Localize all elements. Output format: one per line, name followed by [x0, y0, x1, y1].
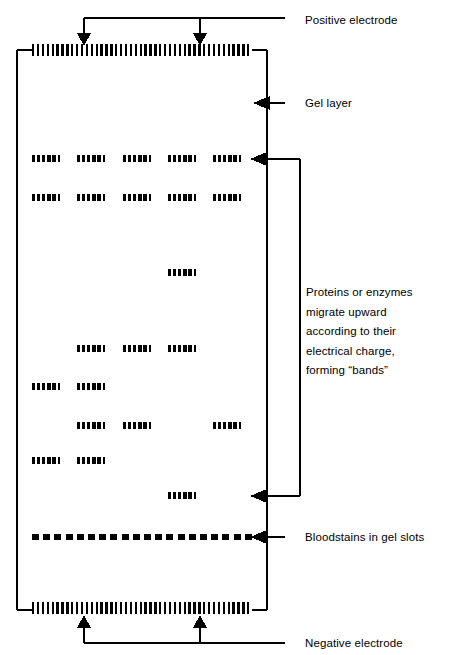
band-dash [92, 457, 95, 464]
electrode-tooth [52, 602, 54, 614]
electrode-tooth [149, 44, 151, 56]
band-dash [183, 269, 186, 276]
band-dash [228, 155, 231, 162]
band-dash [82, 194, 85, 201]
electrode-tooth [223, 602, 225, 614]
band-dash [97, 345, 100, 352]
electrode-tooth [81, 602, 83, 614]
slot-dash [54, 534, 61, 541]
electrode-tooth [154, 602, 156, 614]
band-dash [32, 383, 35, 390]
protein-band [213, 155, 241, 162]
band-dash [32, 457, 35, 464]
electrode-tooth [130, 602, 132, 614]
band-dash [143, 155, 146, 162]
electrode-tooth [140, 44, 142, 56]
band-dash [178, 269, 181, 276]
migration-bands-label: Proteins or enzymes migrate upward accor… [306, 283, 426, 381]
protein-band [168, 194, 196, 201]
electrode-tooth [110, 44, 112, 56]
band-dash [103, 383, 106, 390]
band-dash [82, 422, 85, 429]
band-dash [58, 155, 61, 162]
protein-band [77, 194, 105, 201]
band-dash [58, 383, 61, 390]
electrode-tooth [115, 602, 117, 614]
band-dash [42, 457, 45, 464]
slot-dash [88, 534, 95, 541]
protein-band [123, 155, 151, 162]
band-dash [97, 383, 100, 390]
band-dash [173, 194, 176, 201]
electrode-tooth [159, 44, 161, 56]
electrode-tooth [174, 602, 176, 614]
electrode-tooth [56, 44, 58, 56]
gel-box-outline [17, 50, 267, 610]
protein-band [32, 383, 60, 390]
protein-bands-layer [32, 155, 241, 499]
band-dash [52, 194, 55, 201]
slot-dash [122, 534, 129, 541]
electrode-tooth [81, 44, 83, 56]
band-dash [168, 155, 171, 162]
electrode-tooth [86, 44, 88, 56]
electrode-tooth [125, 602, 127, 614]
electrode-tooth [228, 44, 230, 56]
electrode-tooth [96, 602, 98, 614]
band-dash [183, 155, 186, 162]
band-dash [194, 492, 197, 499]
band-dash [128, 155, 131, 162]
electrode-tooth [247, 602, 249, 614]
electrode-tooth [218, 44, 220, 56]
positive-electrode-comb [32, 44, 249, 56]
band-dash [228, 194, 231, 201]
band-dash [149, 422, 152, 429]
band-dash [103, 194, 106, 201]
slot-dash [144, 534, 151, 541]
electrode-tooth [76, 44, 78, 56]
slot-dash [234, 534, 241, 541]
band-dash [143, 422, 146, 429]
band-dash [178, 155, 181, 162]
band-dash [213, 194, 216, 201]
band-dash [233, 194, 236, 201]
protein-band [77, 155, 105, 162]
band-dash [47, 194, 50, 201]
electrode-tooth [125, 44, 127, 56]
band-dash [133, 422, 136, 429]
electrode-tooth [218, 602, 220, 614]
band-dash [87, 383, 90, 390]
electrode-tooth [164, 602, 166, 614]
band-dash [173, 269, 176, 276]
band-dash [173, 155, 176, 162]
band-dash [194, 194, 197, 201]
electrode-tooth [91, 602, 93, 614]
electrode-tooth [169, 44, 171, 56]
band-dash [32, 155, 35, 162]
protein-band [123, 422, 151, 429]
band-dash [223, 194, 226, 201]
band-dash [168, 492, 171, 499]
band-dash [37, 155, 40, 162]
band-dash [87, 194, 90, 201]
band-dash [188, 345, 191, 352]
slot-dash [99, 534, 106, 541]
band-dash [92, 383, 95, 390]
slot-dash [245, 534, 252, 541]
electrode-tooth [144, 44, 146, 56]
electrode-tooth [91, 44, 93, 56]
band-dash [138, 422, 141, 429]
band-dash [103, 457, 106, 464]
positive-electrode-leader [77, 18, 285, 46]
electrode-tooth [105, 44, 107, 56]
band-dash [143, 345, 146, 352]
electrode-tooth [115, 44, 117, 56]
band-dash [223, 422, 226, 429]
band-dash [87, 457, 90, 464]
slot-dash [155, 534, 162, 541]
bloodstain-slot-row [32, 534, 252, 541]
electrode-tooth [130, 44, 132, 56]
protein-band [213, 422, 241, 429]
slot-dash [166, 534, 173, 541]
band-dash [87, 345, 90, 352]
